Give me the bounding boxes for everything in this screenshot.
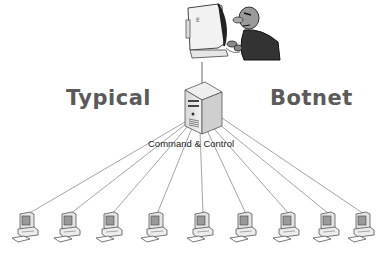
client-computers	[0, 0, 381, 256]
client-pc-icon	[12, 212, 38, 242]
client-pc-icon	[230, 212, 256, 242]
client-pc-icon	[141, 212, 167, 242]
client-pc-icon	[273, 212, 299, 242]
client-pc-icon	[187, 212, 213, 242]
botnet-diagram: E	[0, 0, 381, 256]
client-pc-icon	[96, 212, 122, 242]
client-pc-icon	[348, 212, 374, 242]
client-pc-icon	[54, 212, 80, 242]
client-pc-icon	[313, 212, 339, 242]
